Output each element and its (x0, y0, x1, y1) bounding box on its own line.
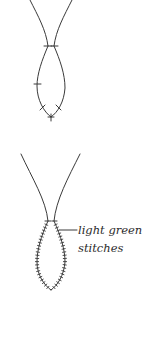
right-strand (54, 154, 80, 221)
stitch-mark (57, 233, 61, 234)
stitch-mark (62, 252, 66, 253)
stitch-mark (37, 245, 41, 246)
figure-basic-loop (30, 0, 72, 121)
stitch-mark (61, 271, 65, 272)
stitch-mark (39, 239, 43, 240)
right-strand (54, 0, 72, 46)
stitch-mark (62, 268, 66, 269)
stitch-mark (36, 252, 40, 253)
left-strand (30, 0, 48, 46)
stitch-mark (59, 239, 63, 240)
left-strand (21, 154, 48, 221)
stitch-mark (36, 249, 40, 250)
stitch-mark (40, 236, 44, 237)
figure-stitched-loop (21, 154, 80, 290)
stitch-mark (41, 233, 45, 234)
stitch-mark (61, 245, 65, 246)
stitch-mark (58, 236, 62, 237)
annotation-label-line1: light green (78, 225, 142, 237)
annotation-label-line2: stitches (78, 243, 123, 255)
stitch-mark (62, 249, 66, 250)
stitch-mark (36, 268, 40, 269)
stitch-mark (63, 265, 67, 266)
stitch-marks (35, 224, 67, 289)
stitch-mark (60, 242, 64, 243)
stitch-mark (36, 271, 40, 272)
diagram-canvas (0, 0, 151, 338)
stitch-mark (38, 242, 42, 243)
